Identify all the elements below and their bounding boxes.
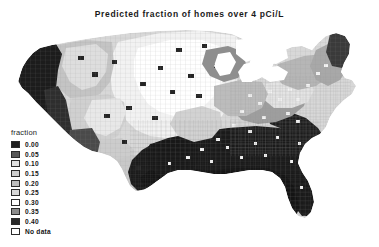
- legend-color-swatch: [11, 170, 20, 177]
- legend-entry: 0.00: [11, 140, 83, 150]
- legend-entry-label: 0.15: [25, 170, 39, 177]
- legend-color-swatch: [11, 208, 20, 215]
- legend-entry: 0.05: [11, 150, 83, 160]
- legend-entry: 0.10: [11, 159, 83, 169]
- legend-entry-label: 0.40: [25, 218, 39, 225]
- legend-entry-label: 0.20: [25, 180, 39, 187]
- legend-entry-label: 0.25: [25, 189, 39, 196]
- page-title: Predicted fraction of homes over 4 pCi/L: [0, 9, 379, 19]
- legend-entry: 0.20: [11, 178, 83, 188]
- legend-entry-label: 0.35: [25, 208, 39, 215]
- legend-color-swatch: [11, 151, 20, 158]
- legend-entry: No data: [11, 226, 83, 236]
- legend-color-swatch: [11, 160, 20, 167]
- legend-entry: 0.15: [11, 169, 83, 179]
- legend-title: fraction: [11, 128, 83, 137]
- legend-color-swatch: [11, 228, 20, 235]
- legend-entry-label: 0.30: [25, 199, 39, 206]
- legend-entry-label: No data: [25, 228, 51, 235]
- map-legend: fraction 0.000.050.100.150.200.250.300.3…: [11, 128, 83, 236]
- legend-color-swatch: [11, 180, 20, 187]
- legend-entry: 0.25: [11, 188, 83, 198]
- legend-color-swatch: [11, 199, 20, 206]
- legend-entry: 0.30: [11, 198, 83, 208]
- legend-entry-label: 0.00: [25, 141, 39, 148]
- legend-entry: 0.35: [11, 207, 83, 217]
- legend-entry-label: 0.10: [25, 160, 39, 167]
- legend-color-swatch: [11, 141, 20, 148]
- legend-color-swatch: [11, 218, 20, 225]
- legend-entry-list: 0.000.050.100.150.200.250.300.350.40No d…: [11, 140, 83, 236]
- legend-entry-label: 0.05: [25, 151, 39, 158]
- radon-map-figure: Predicted fraction of homes over 4 pCi/L: [0, 0, 379, 247]
- legend-color-swatch: [11, 189, 20, 196]
- legend-entry: 0.40: [11, 217, 83, 227]
